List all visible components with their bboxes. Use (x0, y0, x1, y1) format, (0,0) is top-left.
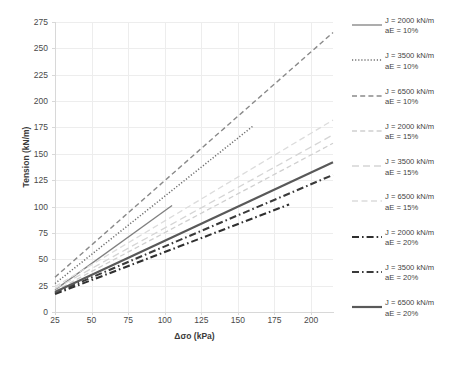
legend-item[interactable]: J = 6500 kN/maE = 10% (352, 87, 458, 122)
x-tick-mark (55, 312, 56, 315)
legend-label-line2: aE = 15% (385, 203, 458, 213)
x-tick-mark (165, 312, 166, 315)
series-line (55, 204, 289, 294)
x-tick-mark (311, 312, 312, 315)
legend-label-line2: aE = 20% (385, 238, 458, 248)
y-tick-label: 250 (0, 43, 48, 53)
legend-item[interactable]: J = 2000 kN/maE = 10% (352, 16, 458, 51)
legend-swatch (352, 21, 382, 29)
legend-item[interactable]: J = 3500 kN/maE = 10% (352, 51, 458, 86)
x-tick-label: 175 (267, 315, 281, 325)
legend-label-line1: J = 3500 kN/m (385, 51, 458, 61)
plot-container: 0255075100125150175200225250275 25507510… (0, 0, 345, 365)
legend-label-line1: J = 3500 kN/m (385, 157, 458, 167)
y-tick-label: 225 (0, 70, 48, 80)
y-tick-label: 100 (0, 202, 48, 212)
legend-label-line2: aE = 10% (385, 62, 458, 72)
legend-label-line1: J = 3500 kN/m (385, 263, 458, 273)
legend-label: J = 3500 kN/maE = 20% (385, 263, 458, 284)
x-tick-label: 125 (194, 315, 208, 325)
legend-label-line2: aE = 10% (385, 97, 458, 107)
legend-item[interactable]: J = 3500 kN/maE = 15% (352, 157, 458, 192)
x-tick-label: 50 (87, 315, 96, 325)
legend-swatch (352, 56, 382, 64)
legend-item[interactable]: J = 2000 kN/maE = 15% (352, 122, 458, 157)
y-tick-label: 200 (0, 96, 48, 106)
series-line (55, 143, 333, 291)
x-axis-line (55, 312, 334, 313)
legend-label: J = 2000 kN/maE = 15% (385, 122, 458, 143)
legend-label-line2: aE = 15% (385, 168, 458, 178)
series-line (55, 175, 333, 293)
series-line (55, 126, 253, 283)
series-line (55, 135, 333, 289)
y-axis-label: Tension (kN/m) (21, 127, 31, 188)
x-tick-label: 200 (304, 315, 318, 325)
x-tick-mark (238, 312, 239, 315)
y-tick-label: 50 (0, 254, 48, 264)
series-line (55, 205, 172, 289)
series-line (55, 120, 333, 287)
chart-legend: J = 2000 kN/maE = 10%J = 3500 kN/maE = 1… (352, 16, 458, 334)
x-tick-mark (128, 312, 129, 315)
legend-swatch (352, 303, 382, 311)
x-tick-mark (92, 312, 93, 315)
y-tick-label: 25 (0, 281, 48, 291)
x-tick-label: 75 (123, 315, 132, 325)
x-tick-mark (201, 312, 202, 315)
x-tick-mark (274, 312, 275, 315)
legend-item[interactable]: J = 6500 kN/maE = 20% (352, 298, 458, 333)
legend-label-line2: aE = 20% (385, 309, 458, 319)
legend-label-line1: J = 2000 kN/m (385, 228, 458, 238)
legend-swatch (352, 233, 382, 241)
legend-swatch (352, 127, 382, 135)
chart-root: 0255075100125150175200225250275 25507510… (0, 0, 458, 365)
x-tick-label: 150 (231, 315, 245, 325)
legend-item[interactable]: J = 6500 kN/maE = 15% (352, 192, 458, 227)
legend-label-line1: J = 6500 kN/m (385, 298, 458, 308)
legend-label: J = 3500 kN/maE = 10% (385, 51, 458, 72)
x-axis-label: Δσo (kPa) (55, 331, 334, 341)
legend-label: J = 6500 kN/maE = 10% (385, 87, 458, 108)
x-tick-label: 100 (158, 315, 172, 325)
y-tick-label: 75 (0, 228, 48, 238)
legend-label-line2: aE = 20% (385, 273, 458, 283)
legend-item[interactable]: J = 3500 kN/maE = 20% (352, 263, 458, 298)
legend-label: J = 2000 kN/maE = 10% (385, 16, 458, 37)
legend-label-line1: J = 6500 kN/m (385, 87, 458, 97)
x-tick-label: 25 (50, 315, 59, 325)
legend-swatch (352, 197, 382, 205)
legend-label-line2: aE = 10% (385, 26, 458, 36)
legend-label: J = 3500 kN/maE = 15% (385, 157, 458, 178)
legend-label: J = 2000 kN/maE = 20% (385, 228, 458, 249)
legend-swatch (352, 162, 382, 170)
y-tick-label: 275 (0, 17, 48, 27)
y-tick-label: 0 (0, 307, 48, 317)
legend-item[interactable]: J = 2000 kN/maE = 20% (352, 228, 458, 263)
legend-label-line1: J = 2000 kN/m (385, 122, 458, 132)
legend-label-line2: aE = 15% (385, 132, 458, 142)
legend-label-line1: J = 6500 kN/m (385, 192, 458, 202)
legend-label: J = 6500 kN/maE = 15% (385, 192, 458, 213)
series-line (55, 162, 333, 292)
legend-label: J = 6500 kN/maE = 20% (385, 298, 458, 319)
legend-swatch (352, 268, 382, 276)
legend-label-line1: J = 2000 kN/m (385, 16, 458, 26)
legend-swatch (352, 92, 382, 100)
series-lines (55, 22, 333, 312)
